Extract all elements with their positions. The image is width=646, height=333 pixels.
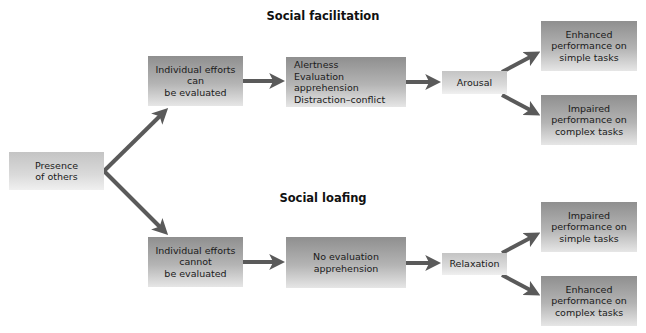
arrow-relaxation-to-enhanced-complex: [502, 275, 534, 292]
node-label: Impaired performance on simple tasks: [551, 210, 627, 245]
arrow-relaxation-to-impaired-simple: [502, 236, 534, 253]
node-impaired-complex-tasks: Impaired performance on complex tasks: [541, 95, 637, 145]
arrow-presence-to-cannot: [104, 171, 163, 230]
node-label: Relaxation: [449, 258, 499, 270]
node-arousal: Arousal: [442, 71, 507, 94]
node-no-evaluation-apprehension: No evaluation apprehension: [286, 237, 406, 288]
node-impaired-simple-tasks: Impaired performance on simple tasks: [541, 202, 637, 252]
node-efforts-can-be-evaluated: Individual efforts can be evaluated: [148, 56, 243, 106]
node-label: Alertness Evaluation apprehension Distra…: [294, 59, 406, 105]
arrow-arousal-to-impaired-complex: [502, 95, 534, 112]
node-label: Individual efforts can be evaluated: [155, 64, 235, 99]
node-label: Arousal: [457, 77, 492, 89]
node-facilitation-mediators: Alertness Evaluation apprehension Distra…: [286, 57, 406, 107]
node-label: Impaired performance on complex tasks: [551, 103, 627, 138]
node-label: Enhanced performance on simple tasks: [551, 29, 627, 64]
node-label: No evaluation apprehension: [313, 251, 379, 274]
node-enhanced-complex-tasks: Enhanced performance on complex tasks: [541, 276, 637, 326]
node-label: Enhanced performance on complex tasks: [551, 284, 627, 319]
section-title-social-facilitation: Social facilitation: [267, 9, 380, 23]
node-relaxation: Relaxation: [442, 253, 507, 275]
node-label: Individual efforts cannot be evaluated: [155, 245, 235, 280]
node-efforts-cannot-be-evaluated: Individual efforts cannot be evaluated: [148, 237, 243, 287]
node-enhanced-simple-tasks: Enhanced performance on simple tasks: [541, 21, 637, 71]
root-node-presence-of-others: Presence of others: [9, 152, 104, 190]
arrow-presence-to-can: [104, 113, 163, 171]
arrow-arousal-to-enhanced-simple: [502, 55, 534, 72]
node-label: Presence of others: [35, 160, 78, 183]
section-title-social-loafing: Social loafing: [279, 191, 366, 205]
